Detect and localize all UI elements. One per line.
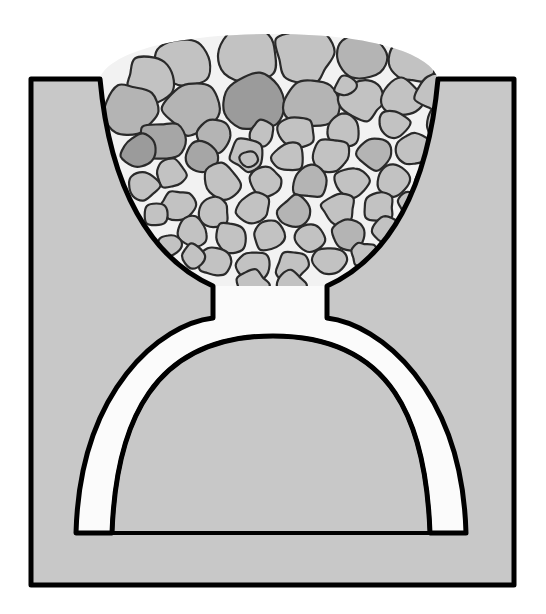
figure-canvas	[0, 0, 546, 614]
granular-particle	[145, 204, 168, 226]
hopper-arching-diagram	[0, 0, 546, 614]
granular-particle	[312, 248, 347, 274]
granular-particle	[239, 152, 258, 167]
